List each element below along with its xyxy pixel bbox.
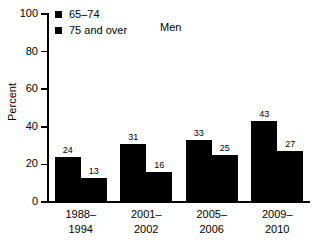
bar-chart-figure: Percent 100806040200 2413311633254327 19… (0, 0, 325, 245)
y-axis-tick (41, 51, 47, 53)
bar-value-label: 27 (273, 140, 307, 149)
x-axis-category-label-line: 2006 (176, 222, 248, 237)
legend-item-label: 75 and over (69, 25, 127, 36)
bar-value-label: 33 (182, 129, 216, 138)
bar-value-label: 16 (142, 161, 176, 170)
bar-value-label: 31 (116, 133, 150, 142)
bar[interactable] (55, 157, 81, 202)
y-axis-tick-label: 20 (0, 158, 38, 169)
x-axis-category-label: 2001–2002 (110, 207, 182, 237)
x-axis-category-label-line: 2002 (110, 222, 182, 237)
legend-swatch-icon (55, 11, 62, 18)
legend: 65–74 75 and over (55, 8, 127, 40)
y-axis-tick-label: 0 (0, 196, 38, 207)
bar[interactable] (277, 151, 303, 202)
y-axis-line (47, 13, 49, 203)
y-axis-tick (41, 126, 47, 128)
y-axis-tick-label: 100 (0, 8, 38, 19)
bar[interactable] (120, 144, 146, 202)
x-axis-category-label-line: 2010 (241, 222, 313, 237)
y-axis-tick (41, 201, 47, 203)
x-axis-category-label: 1988–1994 (45, 207, 117, 237)
y-axis-tick-label: 80 (0, 46, 38, 57)
x-axis-category-label-line: 2009– (241, 207, 313, 222)
x-axis-category-label-line: 1994 (45, 222, 117, 237)
bar-value-label: 43 (247, 110, 281, 119)
x-axis-category-label-line: 2001– (110, 207, 182, 222)
y-axis-tick-label: 60 (0, 83, 38, 94)
legend-item-label: 65–74 (69, 9, 100, 20)
bar-value-label: 24 (51, 146, 85, 155)
legend-item[interactable]: 75 and over (55, 24, 127, 37)
bar[interactable] (81, 178, 107, 202)
legend-swatch-icon (55, 27, 62, 34)
x-axis-category-label: 2009–2010 (241, 207, 313, 237)
bar-value-label: 13 (77, 167, 111, 176)
y-axis-tick-label: 40 (0, 121, 38, 132)
y-axis-tick (41, 164, 47, 166)
y-axis-tick (41, 88, 47, 90)
bar[interactable] (212, 155, 238, 202)
bar[interactable] (251, 121, 277, 202)
x-axis-category-label-line: 2005– (176, 207, 248, 222)
bar-value-label: 25 (208, 144, 242, 153)
y-axis-tick (41, 13, 47, 15)
bar[interactable] (146, 172, 172, 202)
x-axis-category-label: 2005–2006 (176, 207, 248, 237)
chart-title: Men (160, 21, 181, 33)
legend-item[interactable]: 65–74 (55, 8, 127, 21)
x-axis-category-label-line: 1988– (45, 207, 117, 222)
